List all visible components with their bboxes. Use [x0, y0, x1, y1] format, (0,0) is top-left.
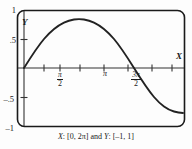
x-tick-label-pi: π [98, 70, 112, 78]
y-tick-label-negative-one: –1 [0, 124, 14, 133]
y-tick-label-negative-half: –.5 [0, 95, 14, 104]
y-axis-label: Y [22, 18, 28, 27]
fraction-pi-over-2: π 2 [57, 71, 63, 88]
pi-glyph: π [103, 69, 107, 78]
plot-area: Y X 1 .5 –.5 –1 π 2 π 3π 2 [0, 0, 192, 132]
caption-y-range: : [–1, 1] [108, 132, 134, 141]
fraction-denominator: 2 [131, 80, 141, 88]
fraction-three-pi-over-2: 3π 2 [131, 71, 141, 88]
plot-svg [0, 0, 192, 132]
x-tick-label-three-pi-over-2: 3π 2 [125, 71, 147, 88]
fraction-denominator: 2 [57, 80, 63, 88]
caption-x-range: : [0, 2π] and [63, 132, 104, 141]
x-axis-label: X [176, 52, 182, 61]
x-tick-label-pi-over-2: π 2 [51, 71, 69, 88]
y-tick-label-half: .5 [0, 36, 16, 45]
y-tick-label-one: 1 [0, 6, 16, 15]
figure-caption: X: [0, 2π] and Y: [–1, 1] [0, 133, 192, 142]
sine-graph-figure: Y X 1 .5 –.5 –1 π 2 π 3π 2 X: [0, 2π] an… [0, 0, 192, 149]
